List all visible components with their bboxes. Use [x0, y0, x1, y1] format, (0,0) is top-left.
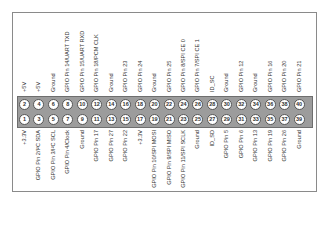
pin-label: Ground	[79, 130, 85, 205]
pin-30: 30	[221, 99, 232, 110]
pin-12: 12	[91, 99, 102, 110]
pin-21: 21	[164, 114, 175, 125]
pin-label: Ground	[223, 73, 229, 92]
pin-label: GPIO Pin 7/SPI CE 1	[194, 39, 200, 92]
pin-34: 34	[250, 99, 261, 110]
pin-label: GPIO Pin 18/PCM CLK	[93, 34, 99, 92]
pin-label: +3.3V	[137, 130, 143, 205]
pin-4: 4	[33, 99, 44, 110]
pin-27: 27	[207, 114, 218, 125]
pin-label: Ground	[252, 73, 258, 92]
pin-label: +5V	[35, 82, 41, 92]
pin-23: 23	[178, 114, 189, 125]
pin-label: GPIO Pin 19	[267, 130, 273, 205]
pin-label: Ground	[296, 130, 302, 205]
pin-18: 18	[135, 99, 146, 110]
pin-label: +3.3V	[21, 130, 27, 205]
pin-17: 17	[135, 114, 146, 125]
pin-label: GPIO Pin 12	[238, 61, 244, 92]
pin-9: 9	[77, 114, 88, 125]
pin-16: 16	[120, 99, 131, 110]
pin-35: 35	[265, 114, 276, 125]
pin-label: GPIO Pin 6	[238, 130, 244, 205]
pin-1: 1	[19, 114, 30, 125]
pin-label: ID_SD	[209, 130, 215, 205]
pin-10: 10	[77, 99, 88, 110]
pin-label: GPIO Pin 4/Clock	[64, 130, 70, 205]
pin-label: Ground	[151, 73, 157, 92]
pin-31: 31	[236, 114, 247, 125]
pin-label: GPIO Pin 20	[281, 61, 287, 92]
pin-label: Ground	[108, 73, 114, 92]
pin-label: GPIO Pin 15/UART RXD	[79, 31, 85, 92]
pin-label: ID_SC	[209, 76, 215, 92]
pin-19: 19	[149, 114, 160, 125]
pin-label: GPIO Pin 17	[93, 130, 99, 205]
pin-label: GPIO Pin 11/SPI SCLK	[180, 130, 186, 205]
pin-label: GPIO Pin 22	[122, 130, 128, 205]
pin-13: 13	[106, 114, 117, 125]
pin-36: 36	[265, 99, 276, 110]
pin-label: GPIO Pin 16	[267, 61, 273, 92]
pin-38: 38	[279, 99, 290, 110]
pin-label: Ground	[50, 73, 56, 92]
pin-label: +5V	[21, 82, 27, 92]
pin-label: GPIO Pin 2/I²C SDA	[35, 130, 41, 205]
pin-label: Ground	[194, 130, 200, 205]
pin-label: GPIO Pin 5	[223, 130, 229, 205]
pin-39: 39	[294, 114, 305, 125]
pin-label: GPIO Pin 9/SPI MISO	[166, 130, 172, 205]
pin-14: 14	[106, 99, 117, 110]
pin-5: 5	[48, 114, 59, 125]
pin-label: GPIO Pin 10/SPI MOSI	[151, 130, 157, 205]
pin-6: 6	[48, 99, 59, 110]
pin-28: 28	[207, 99, 218, 110]
pin-2: 2	[19, 99, 30, 110]
pin-label: GPIO Pin 3/I²C SCL	[50, 130, 56, 205]
pin-24: 24	[178, 99, 189, 110]
pin-label: GPIO Pin 8/SPI CE 0	[180, 39, 186, 92]
pin-label: GPIO Pin 27	[108, 130, 114, 205]
pin-8: 8	[62, 99, 73, 110]
pin-label: GPIO Pin 25	[166, 61, 172, 92]
pin-label: GPIO Pin 21	[296, 61, 302, 92]
pin-32: 32	[236, 99, 247, 110]
pin-20: 20	[149, 99, 160, 110]
pin-label: GPIO Pin 23	[122, 61, 128, 92]
pin-label: GPIO Pin 13	[252, 130, 258, 205]
pin-22: 22	[164, 99, 175, 110]
pin-26: 26	[192, 99, 203, 110]
pin-40: 40	[294, 99, 305, 110]
pin-label: GPIO Pin 14/UART TXD	[64, 31, 70, 92]
pin-label: GPIO Pin 26	[281, 130, 287, 205]
pin-label: GPIO Pin 24	[137, 61, 143, 92]
